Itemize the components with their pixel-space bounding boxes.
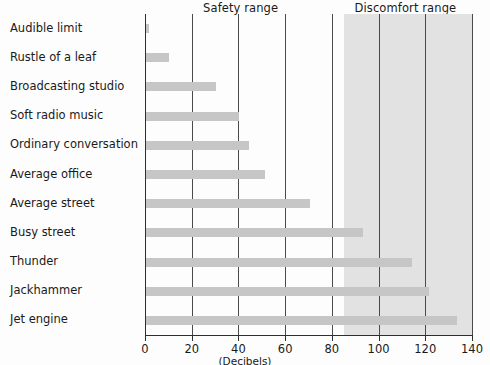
category-label: Audible limit [10, 21, 138, 35]
plot-area [145, 14, 472, 335]
x-tick-label-100: 100 [368, 342, 390, 356]
gridline-140 [472, 14, 473, 335]
x-axis-line [145, 335, 473, 336]
x-tick-label-80: 80 [325, 342, 340, 356]
category-label: Average office [10, 167, 138, 181]
category-label: Ordinary conversation [10, 137, 138, 151]
x-tick-label-60: 60 [278, 342, 293, 356]
x-tick-mark-80 [332, 336, 333, 341]
x-tick-label-40: 40 [231, 342, 246, 356]
bar [146, 53, 169, 62]
category-label: Jackhammer [10, 283, 138, 297]
category-label: Thunder [10, 254, 138, 268]
x-tick-label-20: 20 [184, 342, 199, 356]
x-tick-mark-40 [238, 336, 239, 341]
bar [146, 258, 412, 267]
x-tick-mark-100 [379, 336, 380, 341]
x-tick-mark-120 [425, 336, 426, 341]
bar [146, 170, 265, 179]
noise-levels-bar-chart: Safety range Discomfort range Audible li… [0, 0, 490, 365]
safety-range-heading: Safety range [203, 1, 278, 15]
category-label: Broadcasting studio [10, 79, 138, 93]
bar [146, 287, 429, 296]
bar [146, 316, 457, 325]
bar [146, 228, 363, 237]
discomfort-range-heading: Discomfort range [355, 1, 457, 15]
x-tick-label-0: 0 [141, 342, 148, 356]
bar [146, 24, 149, 33]
bar [146, 141, 249, 150]
category-label: Busy street [10, 225, 138, 239]
x-axis-title: (Decibels) [0, 355, 490, 365]
category-label: Average street [10, 196, 138, 210]
category-label: Jet engine [10, 312, 138, 326]
x-tick-mark-60 [285, 336, 286, 341]
x-tick-mark-0 [145, 336, 146, 341]
x-tick-label-120: 120 [414, 342, 436, 356]
x-tick-label-140: 140 [461, 342, 483, 356]
category-label: Soft radio music [10, 108, 138, 122]
category-label: Rustle of a leaf [10, 50, 138, 64]
bar [146, 82, 216, 91]
x-tick-mark-140 [472, 336, 473, 341]
x-tick-mark-20 [192, 336, 193, 341]
bar [146, 112, 239, 121]
bar [146, 199, 310, 208]
